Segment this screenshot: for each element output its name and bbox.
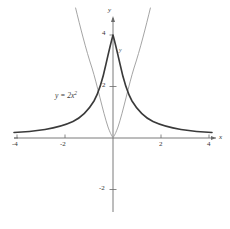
parabola-label-prefix: y = 2 [55,91,71,100]
x-axis-name: x [219,134,222,141]
x-tick-label-neg2: -2 [60,141,66,148]
x-axis [14,135,216,141]
parabola-label-exponent: 2 [74,90,77,96]
x-tick-label-2: 2 [159,141,163,148]
plot-area [0,0,230,229]
graph-figure: -4 -2 2 4 4 2 -2 x y y = 2x2 y [0,0,230,229]
y-tick-label-neg2: -2 [99,185,105,192]
y-tick-label-4: 4 [102,30,106,37]
x-tick-label-neg4: -4 [12,141,18,148]
y-axis-name: y [108,7,111,14]
x-tick-label-4: 4 [207,141,211,148]
y-tick-label-2: 2 [102,82,106,89]
bell-curve-label: y [119,47,122,53]
parabola-equation-label: y = 2x2 [55,92,77,100]
